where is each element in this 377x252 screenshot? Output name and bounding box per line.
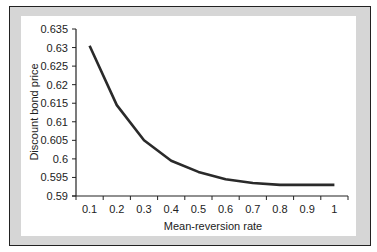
y-tick-label: 0.59 <box>47 190 68 202</box>
y-tick-label: 0.615 <box>40 97 68 109</box>
x-tick-label: 0.9 <box>300 203 315 215</box>
x-tick-label: 0.7 <box>245 203 260 215</box>
x-axis: 0.10.20.30.40.50.60.70.80.91 <box>72 196 348 215</box>
y-tick-label: 0.62 <box>47 79 68 91</box>
x-tick-label: 0.3 <box>136 203 151 215</box>
line-chart: 0.590.5950.60.6050.610.6150.620.6250.630… <box>0 0 377 252</box>
x-tick-label: 1 <box>331 203 337 215</box>
y-tick-label: 0.63 <box>47 42 68 54</box>
y-tick-label: 0.61 <box>47 116 68 128</box>
x-tick-label: 0.5 <box>191 203 206 215</box>
x-tick-label: 0.1 <box>82 203 97 215</box>
y-axis: 0.590.5950.60.6050.610.6150.620.6250.630… <box>40 23 76 202</box>
series-line <box>90 46 335 185</box>
x-axis-title: Mean-reversion rate <box>164 220 262 232</box>
y-tick-label: 0.605 <box>40 134 68 146</box>
x-tick-label: 0.2 <box>109 203 124 215</box>
y-axis-title: Discount bond price <box>28 63 40 160</box>
y-tick-label: 0.625 <box>40 60 68 72</box>
x-tick-label: 0.6 <box>218 203 233 215</box>
y-tick-label: 0.635 <box>40 23 68 35</box>
x-tick-label: 0.8 <box>272 203 287 215</box>
y-tick-label: 0.595 <box>40 171 68 183</box>
y-tick-label: 0.6 <box>53 153 68 165</box>
x-tick-label: 0.4 <box>164 203 179 215</box>
series <box>90 46 335 185</box>
